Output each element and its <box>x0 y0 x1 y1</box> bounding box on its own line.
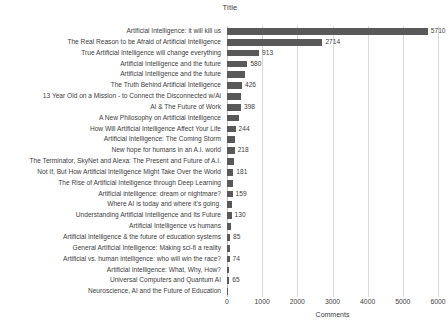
category-label: Artificial Intelligence: What, Why, How? <box>0 267 224 274</box>
bar-row <box>227 245 438 252</box>
bar <box>227 245 230 252</box>
bar-row <box>227 93 438 100</box>
category-label: Where AI is today and where it's going. <box>0 201 224 208</box>
bar <box>227 158 234 165</box>
bar-row: 218 <box>227 147 438 154</box>
x-tick-label: 6000 <box>430 299 445 306</box>
category-label: Artificial vs. human intelligence: who w… <box>0 256 224 263</box>
bar <box>227 180 233 187</box>
category-label: Artificial Intelligence: it will kill us <box>0 28 224 35</box>
bar <box>227 234 230 241</box>
bar-row <box>227 180 438 187</box>
bar <box>227 147 235 154</box>
bar-value-label: 65 <box>232 277 239 284</box>
category-label: Artificial Intelligence & the future of … <box>0 234 224 241</box>
bar-value-label: 426 <box>245 82 256 89</box>
bar-row: 244 <box>227 126 438 133</box>
bar <box>227 256 230 263</box>
bar-value-label: 85 <box>233 234 240 241</box>
bar-row <box>227 201 438 208</box>
x-axis-tick-labels: 0100020003000400050006000 <box>227 299 438 311</box>
category-label: How Will Artificial Intelligence Affect … <box>0 126 224 133</box>
bar <box>227 136 235 143</box>
bar <box>227 277 229 284</box>
bar-chart: Title Artificial Intelligence: it will k… <box>0 0 448 330</box>
bar-row <box>227 115 438 122</box>
bar-value-label: 580 <box>250 61 261 68</box>
bar-row: 5710 <box>227 28 438 35</box>
bar-value-label: 913 <box>262 50 273 57</box>
x-tick-label: 2000 <box>290 299 305 306</box>
bar-row <box>227 223 438 230</box>
bar-row: 85 <box>227 234 438 241</box>
x-tick-label: 1000 <box>255 299 270 306</box>
bar-row: 913 <box>227 50 438 57</box>
category-label: Neuroscience, AI and the Future of Educa… <box>0 288 224 295</box>
category-axis-labels: Artificial Intelligence: it will kill us… <box>0 26 224 297</box>
bar-value-label: 244 <box>239 126 250 133</box>
category-label: The Truth Behind Artificial Intelligence <box>0 82 224 89</box>
bar <box>227 115 239 122</box>
bar <box>227 104 241 111</box>
x-tick-label: 3000 <box>325 299 340 306</box>
bar <box>227 201 232 208</box>
x-tick-label: 4000 <box>360 299 375 306</box>
bar-value-label: 74 <box>233 256 240 263</box>
category-label: Universal Computers and Quantum AI <box>0 277 224 284</box>
category-label: Artificial Intelligence and the future <box>0 71 224 78</box>
bar-value-label: 5710 <box>431 28 446 35</box>
bar-rows: 5710271491358042639824421818115913085746… <box>227 26 438 297</box>
bar <box>227 28 428 35</box>
category-label: A New Philosophy on Artificial Intellige… <box>0 115 224 122</box>
plot-area: 5710271491358042639824421818115913085746… <box>227 26 438 297</box>
category-label: General Artificial Intelligence: Making … <box>0 245 224 252</box>
bar <box>227 169 233 176</box>
bar <box>227 50 259 57</box>
bar <box>227 191 233 198</box>
bar-row: 65 <box>227 277 438 284</box>
bar-value-label: 159 <box>236 191 247 198</box>
bar <box>227 212 232 219</box>
bar-row <box>227 71 438 78</box>
bar-value-label: 218 <box>238 147 249 154</box>
bar <box>227 61 247 68</box>
gridline <box>438 26 439 297</box>
bar <box>227 93 241 100</box>
bar-row <box>227 158 438 165</box>
category-label: 13 Year Old on a Mission - to Connect th… <box>0 93 224 100</box>
bar-row: 74 <box>227 256 438 263</box>
category-label: AI & The Future of Work <box>0 104 224 111</box>
bar-row <box>227 288 438 295</box>
bar-value-label: 181 <box>236 169 247 176</box>
bar-row <box>227 267 438 274</box>
bar-value-label: 398 <box>244 104 255 111</box>
category-label: New hope for humans in an A.I. world <box>0 147 224 154</box>
x-tick-label: 5000 <box>395 299 410 306</box>
bar <box>227 267 229 274</box>
category-label: Understanding Artificial Intelligence an… <box>0 212 224 219</box>
bar-row: 2714 <box>227 39 438 46</box>
bar <box>227 39 322 46</box>
bar-row: 580 <box>227 61 438 68</box>
bar-row: 130 <box>227 212 438 219</box>
category-label: Artificial Intelligence: The Coming Stor… <box>0 136 224 143</box>
x-tick-label: 0 <box>225 299 229 306</box>
category-label: The Rise of Artificial Intelligence thro… <box>0 180 224 187</box>
category-label: Artificial Intelligence vs humans <box>0 223 224 230</box>
bar-row: 398 <box>227 104 438 111</box>
bar <box>227 71 245 78</box>
bar <box>227 223 231 230</box>
category-label: Artificial intelligence: dream or nightm… <box>0 191 224 198</box>
bar-value-label: 130 <box>235 212 246 219</box>
category-label: Not If, But How Artificial Intelligence … <box>0 169 224 176</box>
bar <box>227 82 242 89</box>
category-label: Artificial Intelligence and the future <box>0 61 224 68</box>
bar-value-label: 2714 <box>325 39 340 46</box>
x-axis-title: Comments <box>227 311 438 318</box>
bar <box>227 288 228 295</box>
bar <box>227 126 236 133</box>
bar-row: 181 <box>227 169 438 176</box>
bar-row: 426 <box>227 82 438 89</box>
category-label: The Real Reason to be Afraid of Artifici… <box>0 39 224 46</box>
category-label: True Artificial Intelligence will change… <box>0 50 224 57</box>
